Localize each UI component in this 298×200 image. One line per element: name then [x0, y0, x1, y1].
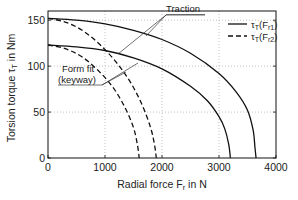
x-tick-label: 0: [45, 161, 51, 173]
chart: 01000200030004000050100150 Traction Form…: [0, 0, 298, 200]
traction-label: Traction: [166, 3, 200, 14]
y-tick-label: 0: [39, 152, 45, 164]
series-line: [48, 18, 156, 158]
x-tick-label: 2000: [150, 161, 174, 173]
form-fit-sublabel: (keyway): [58, 74, 96, 85]
x-tick-label: 1000: [93, 161, 117, 173]
form-fit-label: Form fit: [62, 63, 95, 74]
x-tick-label: 4000: [264, 161, 288, 173]
x-tick-label: 3000: [207, 161, 231, 173]
legend: τT(Fr1) τT(Fr2): [228, 19, 277, 43]
series-line: [48, 18, 256, 158]
x-axis-label: Radial force Fr in N: [117, 178, 206, 192]
y-tick-label: 50: [33, 106, 45, 118]
y-axis-label: Torsion torque τT in Nm: [5, 33, 19, 142]
data-series: [48, 18, 256, 158]
legend-label-fr2: τT(Fr2): [251, 31, 277, 43]
y-tick-label: 150: [27, 14, 45, 26]
legend-label-fr1: τT(Fr1): [251, 19, 277, 31]
series-line: [48, 45, 139, 158]
y-tick-label: 100: [27, 60, 45, 72]
